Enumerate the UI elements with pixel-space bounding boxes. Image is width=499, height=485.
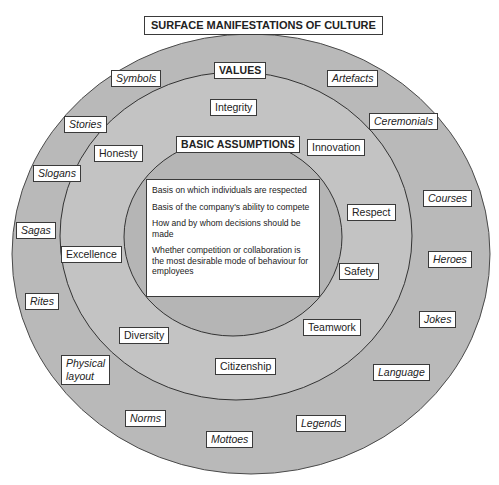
value-item-innovation: Innovation <box>307 139 365 156</box>
diagram-title: SURFACE MANIFESTATIONS OF CULTURE <box>144 16 383 35</box>
assumption-item: Basis of the company's ability to compet… <box>152 202 314 213</box>
assumption-item: Whether competition or collaboration is … <box>152 245 314 277</box>
surface-item-language: Language <box>373 364 430 381</box>
surface-item-heroes: Heroes <box>428 251 472 268</box>
value-item-respect: Respect <box>347 204 396 221</box>
surface-item-artefacts: Artefacts <box>327 70 378 87</box>
value-item-honesty: Honesty <box>94 145 143 162</box>
surface-item-slogans: Slogans <box>33 165 81 182</box>
assumption-item: Basis on which individuals are respected <box>152 185 314 196</box>
value-item-integrity: Integrity <box>210 99 257 116</box>
value-item-diversity: Diversity <box>119 327 169 344</box>
basic-assumptions-heading: BASIC ASSUMPTIONS <box>176 136 300 153</box>
value-item-excellence: Excellence <box>61 246 122 263</box>
values-heading: VALUES <box>214 62 266 79</box>
assumption-item: How and by whom decisions should be made <box>152 218 314 239</box>
surface-item-symbols: Symbols <box>111 70 161 87</box>
value-item-citizenship: Citizenship <box>215 358 276 375</box>
surface-item-rites: Rites <box>25 293 59 310</box>
surface-item-mottoes: Mottoes <box>206 431 253 448</box>
value-item-teamwork: Teamwork <box>303 319 361 336</box>
surface-item-courses: Courses <box>423 190 472 207</box>
value-item-safety: Safety <box>339 263 379 280</box>
culture-layers-diagram: SURFACE MANIFESTATIONS OF CULTURE Symbol… <box>0 0 499 485</box>
surface-item-jokes: Jokes <box>419 311 456 328</box>
surface-item-physical-layout: Physical layout <box>61 355 110 385</box>
surface-item-norms: Norms <box>125 410 166 427</box>
basic-assumptions-box: Basis on which individuals are respected… <box>146 179 320 297</box>
surface-item-ceremonials: Ceremonials <box>369 113 438 130</box>
surface-item-legends: Legends <box>296 415 346 432</box>
surface-item-sagas: Sagas <box>16 222 56 239</box>
surface-item-stories: Stories <box>64 116 107 133</box>
